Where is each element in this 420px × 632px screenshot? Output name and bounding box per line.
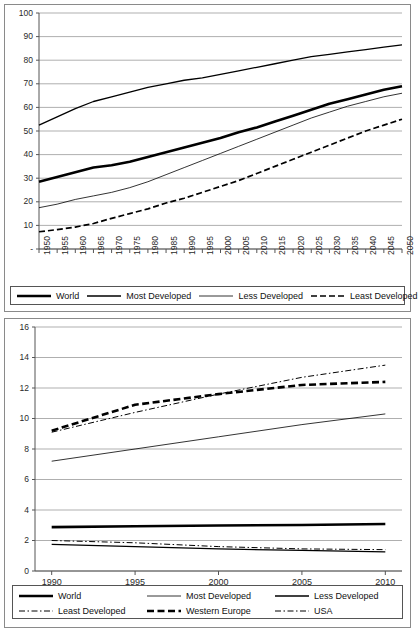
x-tick-label: 2050 [406,236,415,255]
chart-top-legend: WorldMost DevelopedLess DevelopedLeast D… [10,286,405,305]
y-tick-label: 70 [5,79,33,88]
series-line [39,86,402,182]
y-tick-label: 90 [5,32,33,41]
y-tick-label: - [5,245,33,254]
x-tick-label: 1985 [170,236,179,255]
legend-item-label: Most Developed [126,291,193,301]
x-tick-label: 1990 [188,236,197,255]
legend-item: World [11,291,81,301]
legend-item-label: World [56,291,81,301]
y-tick-label: 80 [5,56,33,65]
x-tick-label: 1965 [97,236,106,255]
chart-top: -102030405060708090100195019551960196519… [4,4,411,312]
x-tick-label: 2030 [333,236,342,255]
series-line [52,414,386,461]
x-tick-label: 2045 [387,236,396,255]
y-tick-label: 0 [5,567,29,576]
series-line [39,119,402,232]
legend-line-icon [19,591,53,601]
legend-row: WorldMost DevelopedLess Developed [13,588,402,603]
x-tick-label: 1955 [61,236,70,255]
legend-item: USA [269,606,397,616]
y-tick-label: 8 [5,445,29,454]
x-tick-label: 2035 [351,236,360,255]
gridlines [35,327,402,571]
y-tick-label: 14 [5,353,29,362]
series-line [52,382,386,431]
x-tick-label: 1975 [133,236,142,255]
legend-line-icon [147,591,181,601]
y-tick-label: 50 [5,127,33,136]
x-tick-label: 1970 [115,236,124,255]
y-tick-label: 10 [5,221,33,230]
legend-item-label: Most Developed [186,591,253,601]
y-tick-label: 12 [5,384,29,393]
x-tick-label: 2020 [297,236,306,255]
legend-item: Most Developed [81,291,193,301]
series-line [52,544,386,552]
y-tick-label: 40 [5,150,33,159]
y-tick-label: 4 [5,506,29,515]
y-tick-label: 30 [5,174,33,183]
legend-item: Less Developed [193,291,305,301]
legend-item: Least Developed [13,606,141,616]
legend-line-icon [311,291,345,301]
plot-svg [5,5,410,311]
legend-line-icon [199,291,233,301]
x-tick-label: 2010 [260,236,269,255]
legend-item-label: USA [314,606,335,616]
legend-line-icon [275,606,309,616]
legend-line-icon [87,291,121,301]
legend-item-label: Least Developed [350,291,420,301]
series-line [52,365,386,432]
x-tick-label: 2025 [315,236,324,255]
x-tick-label: 2000 [224,236,233,255]
x-tick-label: 1950 [43,236,52,255]
legend-item: Least Developed [305,291,420,301]
legend-line-icon [19,606,53,616]
gridlines [39,13,402,249]
chart-top-plot-area: -102030405060708090100195019551960196519… [5,5,410,311]
legend-item-label: World [58,591,83,601]
legend-item-label: Least Developed [58,606,128,616]
chart-bottom-plot-area: 024681012141619901995200020052010 [5,319,410,627]
legend-item-label: Western Europe [186,606,253,616]
legend-line-icon [17,291,51,301]
y-tick-label: 6 [5,475,29,484]
legend-line-icon [147,606,181,616]
x-tick-label: 2015 [278,236,287,255]
y-tick-label: 16 [5,323,29,332]
series-line [39,93,402,207]
x-tick-label: 1960 [79,236,88,255]
legend-item-label: Less Developed [314,591,381,601]
x-tick-label: 1980 [151,236,160,255]
legend-row: Least DevelopedWestern EuropeUSA [13,603,402,618]
legend-line-icon [275,591,309,601]
legend-item: World [13,591,141,601]
series-line [52,524,386,527]
series-line [39,45,402,125]
legend-item: Most Developed [141,591,269,601]
y-tick-label: 60 [5,103,33,112]
legend-item: Less Developed [269,591,397,601]
y-tick-label: 2 [5,536,29,545]
y-tick-label: 10 [5,414,29,423]
chart-bottom-legend: WorldMost DevelopedLess DevelopedLeast D… [12,585,403,619]
y-tick-label: 20 [5,197,33,206]
x-tick-label: 2040 [369,236,378,255]
legend-item-label: Less Developed [238,291,305,301]
chart-bottom: 024681012141619901995200020052010 [4,318,411,628]
legend-item: Western Europe [141,606,269,616]
x-tick-label: 2005 [242,236,251,255]
y-tick-label: 100 [5,9,33,18]
x-tick-label: 1995 [206,236,215,255]
